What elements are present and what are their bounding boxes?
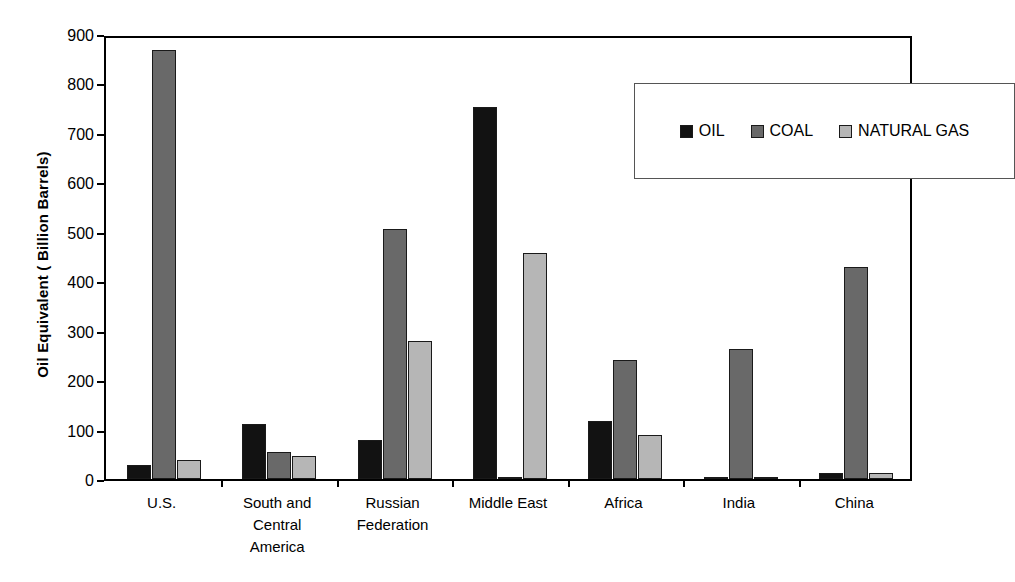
y-axis-ticks: 9008007006005004003002001000 [0, 36, 104, 481]
y-axis-tick: 300 [12, 325, 104, 341]
bar-oil [704, 477, 728, 479]
x-axis-labels: U.S.South and Central AmericaRussian Fed… [104, 492, 912, 572]
y-axis-tick: 400 [12, 275, 104, 291]
chart-legend: OILCOALNATURAL GAS [634, 83, 1015, 179]
bar-coal [152, 50, 176, 479]
bar-oil [358, 440, 382, 479]
bar-natural-gas [408, 341, 432, 479]
x-axis-category-label: Russian Federation [335, 492, 450, 536]
y-axis-tick-mark [97, 183, 104, 185]
oil-swatch [680, 125, 693, 138]
legend-label: OIL [699, 122, 725, 140]
bar-oil [242, 424, 266, 479]
y-axis-tick-mark [97, 431, 104, 433]
bar-coal [729, 349, 753, 479]
legend-item: COAL [751, 122, 814, 140]
bar-coal [844, 267, 868, 479]
bar-coal [498, 477, 522, 479]
x-axis-category-label: U.S. [104, 492, 219, 514]
y-axis-tick: 600 [12, 176, 104, 192]
bar-oil [819, 473, 843, 479]
y-axis-tick: 900 [12, 28, 104, 44]
y-axis-tick-mark [97, 480, 104, 482]
x-axis-tick-mark [568, 479, 570, 487]
y-axis-tick: 0 [12, 473, 104, 489]
plot-area: OILCOALNATURAL GAS [104, 36, 912, 481]
y-axis-tick-mark [97, 35, 104, 37]
bar-oil [473, 107, 497, 479]
bar-natural-gas [638, 435, 662, 480]
y-axis-tick-mark [97, 332, 104, 334]
bar-coal [613, 360, 637, 479]
bar-natural-gas [754, 477, 778, 479]
bar-natural-gas [177, 460, 201, 479]
bar-natural-gas [869, 473, 893, 479]
bar-coal [267, 452, 291, 479]
bar-natural-gas [292, 456, 316, 479]
legend-item: NATURAL GAS [839, 122, 969, 140]
x-axis-category-label: South and Central America [219, 492, 334, 558]
bar-group [221, 38, 336, 479]
x-axis-tick-mark [337, 479, 339, 487]
bar-group [106, 38, 221, 479]
x-axis-tick-mark [799, 479, 801, 487]
bar-oil [588, 421, 612, 479]
legend-label: COAL [770, 122, 814, 140]
y-axis-tick-mark [97, 282, 104, 284]
y-axis-tick-mark [97, 134, 104, 136]
y-axis-tick: 200 [12, 374, 104, 390]
legend-item: OIL [680, 122, 725, 140]
y-axis-tick-mark [97, 381, 104, 383]
x-axis-category-label: India [681, 492, 796, 514]
y-axis-tick-mark [97, 233, 104, 235]
y-axis-tick: 700 [12, 127, 104, 143]
bar-natural-gas [523, 253, 547, 479]
x-axis-category-label: Middle East [450, 492, 565, 514]
y-axis-tick: 100 [12, 424, 104, 440]
y-axis-tick: 800 [12, 77, 104, 93]
y-axis-tick-mark [97, 84, 104, 86]
bar-coal [383, 229, 407, 479]
x-axis-category-label: China [797, 492, 912, 514]
x-axis-category-label: Africa [566, 492, 681, 514]
x-axis-tick-mark [452, 479, 454, 487]
coal-swatch [751, 125, 764, 138]
bar-group [452, 38, 567, 479]
x-axis-tick-mark [683, 479, 685, 487]
bar-oil [127, 465, 151, 479]
x-axis-tick-mark [221, 479, 223, 487]
natural-gas-swatch [839, 125, 852, 138]
legend-label: NATURAL GAS [858, 122, 969, 140]
y-axis-tick: 500 [12, 226, 104, 242]
legend-items: OILCOALNATURAL GAS [635, 122, 1014, 140]
bar-group [337, 38, 452, 479]
